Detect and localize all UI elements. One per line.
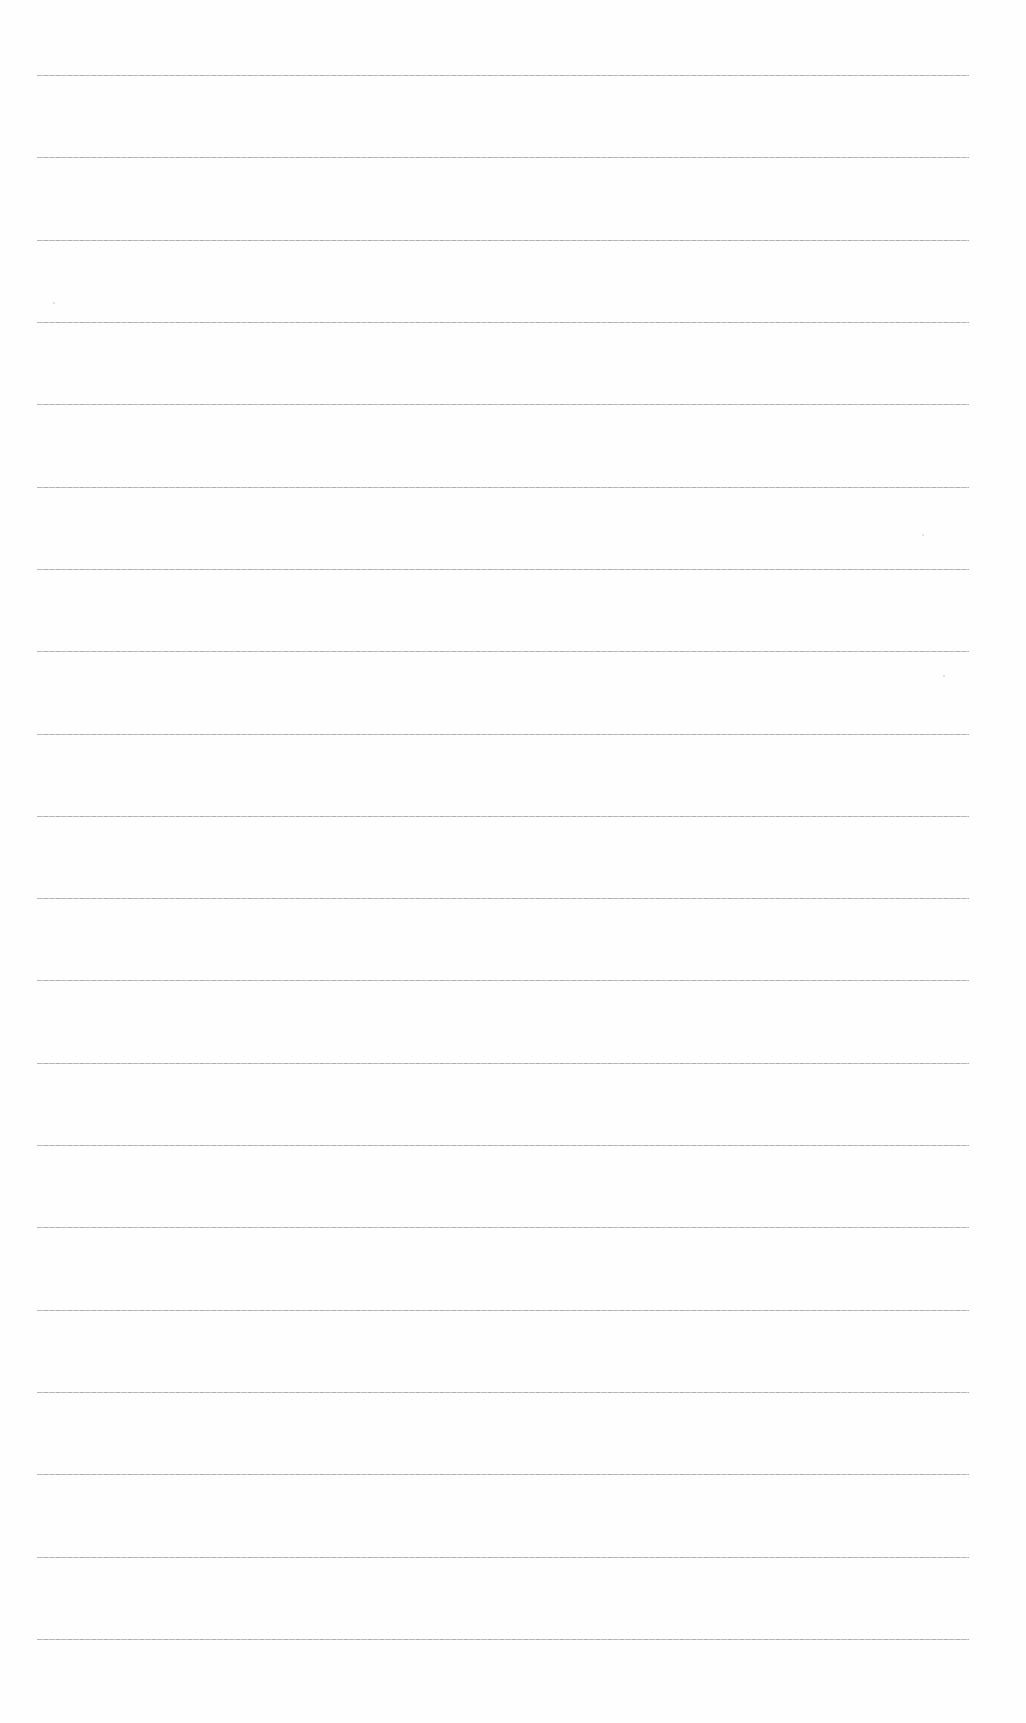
ruled-line	[37, 1310, 969, 1311]
ruled-line	[37, 898, 969, 899]
paper-speck	[922, 534, 924, 536]
ruled-line	[37, 1474, 969, 1475]
ruled-line	[37, 1063, 969, 1064]
ruled-line	[37, 75, 969, 76]
ruled-line	[37, 322, 969, 323]
ruled-paper-sheet	[0, 0, 1026, 1723]
paper-speck	[53, 302, 55, 304]
ruled-line	[37, 1639, 969, 1640]
ruled-line	[37, 487, 969, 488]
ruled-line	[37, 651, 969, 652]
ruled-line	[37, 734, 969, 735]
ruled-line	[37, 1227, 969, 1228]
ruled-line	[37, 404, 969, 405]
ruled-line	[37, 240, 969, 241]
ruled-line	[37, 1392, 969, 1393]
ruled-line	[37, 569, 969, 570]
paper-speck	[943, 675, 945, 677]
ruled-line	[37, 157, 969, 158]
ruled-line	[37, 816, 969, 817]
ruled-line	[37, 1557, 969, 1558]
ruled-line	[37, 1145, 969, 1146]
ruled-line	[37, 980, 969, 981]
